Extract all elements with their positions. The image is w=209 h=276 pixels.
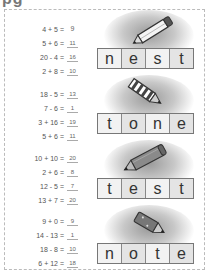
- answer: 20: [67, 154, 78, 163]
- crayon-icon: [116, 144, 176, 174]
- equation: 9 + 0 =9: [14, 214, 78, 228]
- equation: 3 + 16 =19: [14, 115, 78, 129]
- answer: 8: [67, 168, 78, 177]
- equation: 2 + 6 =8: [14, 165, 78, 179]
- letter-box: e: [170, 114, 193, 133]
- equation-group-2: 18 - 5 =13 7 - 6 =1 3 + 16 =19 5 + 6 =11: [14, 87, 78, 143]
- letter-box: n: [98, 244, 122, 263]
- letter-box: n: [98, 49, 122, 68]
- letter-box: e: [122, 179, 146, 198]
- letter-box: e: [122, 49, 146, 68]
- short-pencil-icon: [126, 209, 174, 241]
- answer: 1: [67, 231, 78, 240]
- answer: 7: [67, 182, 78, 191]
- answer: 11: [67, 132, 78, 141]
- letter-box: t: [146, 244, 170, 263]
- letter-box: t: [170, 179, 193, 198]
- answer: 19: [67, 118, 78, 127]
- letter-box: s: [146, 49, 170, 68]
- answer: 10: [67, 245, 78, 254]
- answer: 10: [67, 67, 78, 76]
- letter-box: t: [98, 179, 122, 198]
- answer: 9: [67, 25, 78, 33]
- letter-box: t: [170, 49, 193, 68]
- equation: 2 + 8 =10: [14, 64, 78, 78]
- equation: 10 + 10 =20: [14, 151, 78, 165]
- word-card-4: n o t e: [96, 205, 196, 271]
- pencil-icon: [128, 16, 180, 46]
- letter-box: t: [98, 114, 122, 133]
- answer: 16: [67, 53, 78, 62]
- equation: 18 - 8 =10: [14, 242, 78, 256]
- equation: 5 + 6 =11: [14, 36, 78, 50]
- word-boxes: n e s t: [97, 48, 194, 69]
- equation: 7 - 6 =1: [14, 101, 78, 115]
- answer: 18: [67, 259, 78, 268]
- word-boxes: t e s t: [97, 178, 194, 199]
- equation: 13 + 7 =20: [14, 193, 78, 207]
- letter-box: n: [146, 114, 170, 133]
- equation-group-3: 10 + 10 =20 2 + 6 =8 12 - 5 =7 13 + 7 =2…: [14, 151, 78, 207]
- answer: 11: [67, 39, 78, 48]
- letter-box: o: [122, 114, 146, 133]
- letter-box: e: [170, 244, 193, 263]
- equation: 20 - 4 =16: [14, 50, 78, 64]
- answer: 13: [67, 90, 78, 99]
- letter-box: o: [122, 244, 146, 263]
- equation: 14 - 13 =1: [14, 228, 78, 242]
- equation: 18 - 5 =13: [14, 87, 78, 101]
- word-boxes: n o t e: [97, 243, 194, 264]
- equation-group-1: 4 + 5 =9 5 + 6 =11 20 - 4 =16 2 + 8 =10: [14, 22, 78, 78]
- equation: 12 - 5 =7: [14, 179, 78, 193]
- word-card-1: n e s t: [96, 10, 196, 76]
- equation-group-4: 9 + 0 =9 14 - 13 =1 18 - 8 =10 6 + 12 =1…: [14, 214, 78, 270]
- word-boxes: t o n e: [97, 113, 194, 134]
- equation: 6 + 12 =18: [14, 256, 78, 270]
- word-card-2: t o n e: [96, 75, 196, 141]
- answer: 20: [67, 196, 78, 205]
- striped-pencil-icon: [122, 77, 170, 109]
- equation: 4 + 5 =9: [14, 22, 78, 36]
- answer: 1: [67, 104, 78, 113]
- word-card-3: t e s t: [96, 140, 196, 206]
- letter-box: s: [146, 179, 170, 198]
- equation: 5 + 6 =11: [14, 129, 78, 143]
- answer: 9: [67, 217, 78, 226]
- page-title-fragment: pg: [2, 0, 24, 8]
